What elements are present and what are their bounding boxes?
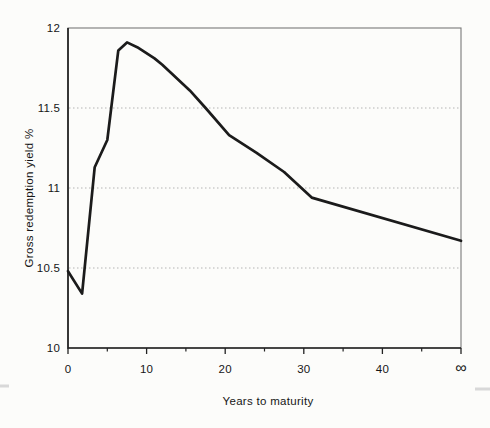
series-line	[68, 42, 461, 293]
yield-curve-chart: 010203040∞1010.51111.512 Gross redemptio…	[0, 0, 490, 428]
y-tick-label: 10.5	[37, 262, 60, 274]
y-tick-label: 11	[48, 182, 60, 194]
yield-curve-line	[68, 42, 461, 293]
tick-labels: 010203040∞1010.51111.512	[37, 22, 467, 376]
x-axis-title: Years to maturity	[223, 395, 314, 407]
x-tick-label: 0	[65, 363, 72, 375]
x-tick-label: 10	[140, 363, 153, 375]
x-tick-label: 30	[297, 363, 310, 375]
x-tick-label: 40	[376, 363, 389, 375]
y-tick-label: 12	[47, 22, 60, 34]
y-axis-title: Gross redemption yield %	[23, 129, 35, 268]
yield-curve-figure: 010203040∞1010.51111.512 Gross redemptio…	[0, 0, 490, 428]
gridlines	[69, 108, 460, 268]
x-tick-label: ∞	[455, 359, 467, 376]
x-tick-label: 20	[219, 363, 232, 375]
y-tick-label: 10	[47, 342, 60, 354]
axis-ticks	[68, 348, 461, 354]
y-tick-label: 11.5	[38, 102, 60, 114]
